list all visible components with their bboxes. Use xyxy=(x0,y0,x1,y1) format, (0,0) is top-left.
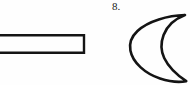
figure-canvas xyxy=(0,0,190,85)
figure-number-label: 8. xyxy=(112,0,120,13)
figure-page: 8. xyxy=(0,0,190,85)
